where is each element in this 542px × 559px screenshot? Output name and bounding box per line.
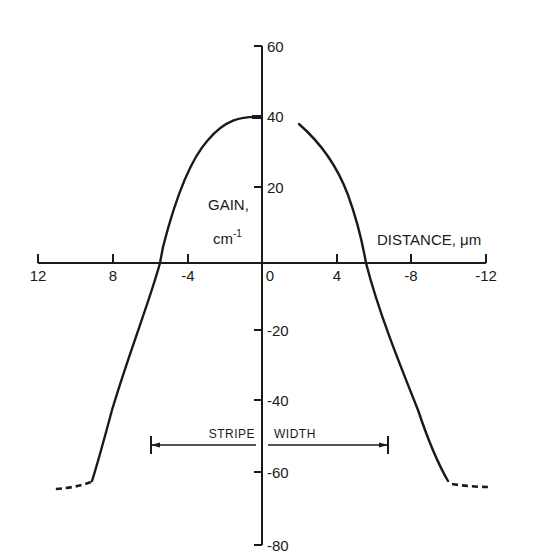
y-tick-label: -40 bbox=[267, 392, 289, 409]
gain-curve-right-extrapolated bbox=[452, 484, 490, 487]
x-tick-label: -8 bbox=[404, 267, 417, 284]
y-tick-label: -60 bbox=[267, 464, 289, 481]
x-axis: 128-404-8-12 bbox=[30, 254, 497, 284]
x-tick-label: 8 bbox=[109, 267, 117, 284]
width-label: WIDTH bbox=[274, 427, 316, 441]
y-axis-unit: cm-1 bbox=[213, 228, 242, 247]
x-tick-label: -12 bbox=[475, 267, 497, 284]
y-axis-title: GAIN, bbox=[208, 196, 249, 213]
stripe-label: STRIPE bbox=[209, 427, 255, 441]
gain-curve-left-extrapolated bbox=[55, 482, 91, 489]
arrow-right-icon bbox=[379, 443, 388, 448]
y-tick-label: 20 bbox=[267, 179, 284, 196]
stripe-width-marker: STRIPE WIDTH bbox=[151, 427, 388, 454]
y-tick-label: 40 bbox=[267, 108, 284, 125]
x-axis-title: DISTANCE, μm bbox=[377, 231, 481, 248]
gain-curves bbox=[55, 117, 490, 489]
x-tick-label: 12 bbox=[30, 267, 47, 284]
y-tick-label: 60 bbox=[267, 38, 284, 55]
x-tick-label: -4 bbox=[181, 267, 194, 284]
y-tick-label: -80 bbox=[267, 537, 289, 554]
x-axis-ticks: 128-404-8-12 bbox=[30, 254, 497, 284]
gain-distance-chart: 128-404-8-12 604020-20-40-60-80 STRIPE W… bbox=[0, 0, 542, 559]
y-axis-unit-base: cm bbox=[213, 230, 233, 247]
x-tick-label: 4 bbox=[333, 267, 341, 284]
x-tick-label: 0 bbox=[266, 267, 274, 284]
y-tick-label: -20 bbox=[267, 322, 289, 339]
arrow-left-icon bbox=[151, 443, 160, 448]
gain-curve-right bbox=[299, 124, 448, 481]
y-axis-unit-exponent: -1 bbox=[233, 228, 242, 239]
